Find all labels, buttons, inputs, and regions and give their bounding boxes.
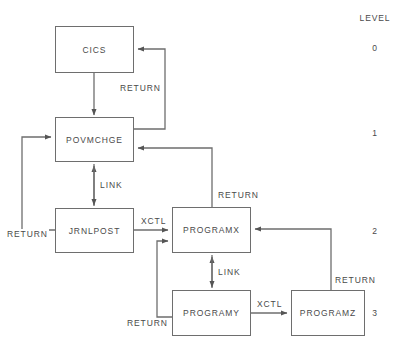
flow-diagram: CICS POVMCHGE JRNLPOST PROGRAMX PROGRAMY… — [0, 0, 412, 354]
edge-label-link-povmchge-jrnlpost: LINK — [99, 180, 124, 190]
edge-label-jrnlpost-to-programx: XCTL — [140, 216, 167, 226]
level-value-0: 0 — [355, 43, 395, 53]
edge-label-programy-to-programz: XCTL — [256, 299, 283, 309]
node-jrnlpost[interactable]: JRNLPOST — [55, 208, 134, 253]
level-value-2: 2 — [355, 226, 395, 236]
edge-label-jrnlpost-to-povmchge: RETURN — [6, 229, 49, 239]
edge-label-povmchge-to-cics: RETURN — [119, 83, 162, 93]
node-programz-label: PROGRAMZ — [300, 308, 356, 318]
node-jrnlpost-label: JRNLPOST — [69, 226, 121, 236]
node-cics-label: CICS — [83, 45, 107, 55]
level-value-3: 3 — [355, 308, 395, 318]
edge-programz-to-programx — [255, 229, 331, 290]
node-povmchge[interactable]: POVMCHGE — [55, 117, 134, 162]
level-column-header: LEVEL — [355, 13, 395, 23]
node-povmchge-label: POVMCHGE — [66, 135, 123, 145]
node-cics[interactable]: CICS — [55, 26, 134, 73]
node-programy-label: PROGRAMY — [183, 308, 240, 318]
level-value-1: 1 — [355, 128, 395, 138]
edge-programx-to-povmchge — [138, 148, 212, 207]
node-programx[interactable]: PROGRAMX — [172, 207, 251, 253]
node-programy[interactable]: PROGRAMY — [172, 290, 251, 336]
node-programz[interactable]: PROGRAMZ — [291, 290, 365, 336]
edge-label-programy-to-programx: RETURN — [126, 318, 169, 328]
edge-label-programx-to-povmchge: RETURN — [217, 190, 260, 200]
edge-label-programz-to-programx: RETURN — [334, 275, 377, 285]
edge-jrnlpost-to-povmchge — [22, 137, 55, 230]
edge-programy-to-programx — [157, 241, 172, 317]
node-programx-label: PROGRAMX — [183, 225, 240, 235]
edge-label-link-programx-programy: LINK — [217, 267, 242, 277]
